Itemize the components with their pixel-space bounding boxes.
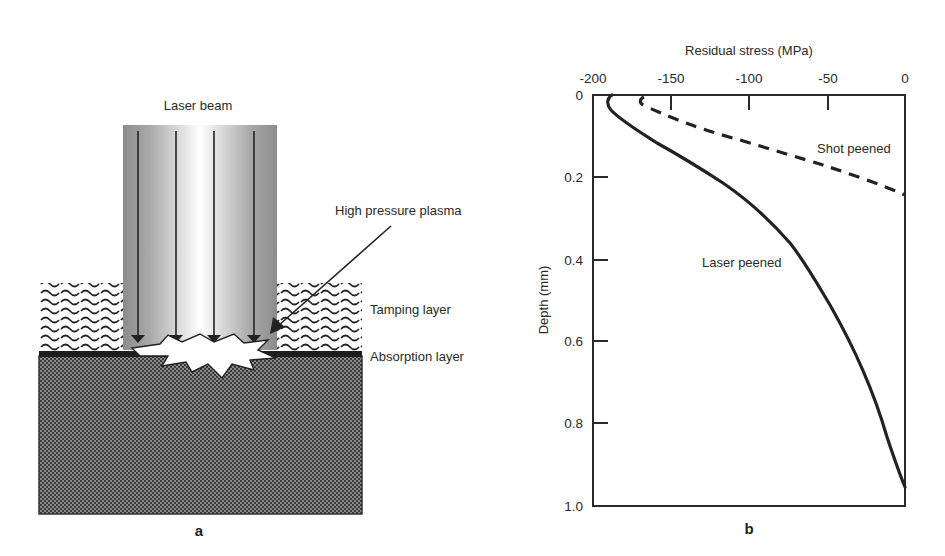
x-tick-label: -200 bbox=[579, 71, 606, 86]
plot-frame bbox=[593, 95, 905, 506]
y-tick-label: 0.8 bbox=[564, 416, 583, 431]
laser-beam bbox=[123, 125, 277, 350]
y-tick-label: 0.2 bbox=[564, 170, 583, 185]
substrate bbox=[39, 356, 362, 514]
high-pressure-plasma-label: High pressure plasma bbox=[335, 203, 462, 218]
y-axis-title: Depth (mm) bbox=[536, 266, 551, 335]
x-tick-label: -100 bbox=[735, 71, 762, 86]
y-tick-label: 0.6 bbox=[564, 334, 583, 349]
y-tick-label: 1.0 bbox=[564, 499, 583, 514]
tamping-layer-left bbox=[40, 283, 123, 351]
tamping-layer-right bbox=[277, 283, 362, 351]
x-tick-label: 0 bbox=[901, 71, 909, 86]
panel-b-chart: Residual stress (MPa) -200 -150 -100 -50… bbox=[536, 43, 909, 537]
panel-a-diagram: Laser beam High pressure plasma Tamping … bbox=[39, 98, 465, 539]
x-tick-label: -150 bbox=[657, 71, 684, 86]
y-tick-label: 0.4 bbox=[564, 253, 583, 268]
x-axis-title: Residual stress (MPa) bbox=[685, 43, 813, 58]
panel-a-label: a bbox=[195, 522, 204, 539]
panel-b-label: b bbox=[744, 520, 753, 537]
shot-peened-label: Shot peened bbox=[817, 141, 891, 156]
laser-beam-label: Laser beam bbox=[164, 98, 233, 113]
laser-peened-label: Laser peened bbox=[702, 255, 782, 270]
y-tick-label: 0 bbox=[575, 88, 583, 103]
x-tick-label: -50 bbox=[818, 71, 838, 86]
absorption-layer-label: Absorption layer bbox=[370, 349, 465, 364]
tamping-layer-label: Tamping layer bbox=[370, 302, 452, 317]
figure: Laser beam High pressure plasma Tamping … bbox=[0, 0, 945, 556]
